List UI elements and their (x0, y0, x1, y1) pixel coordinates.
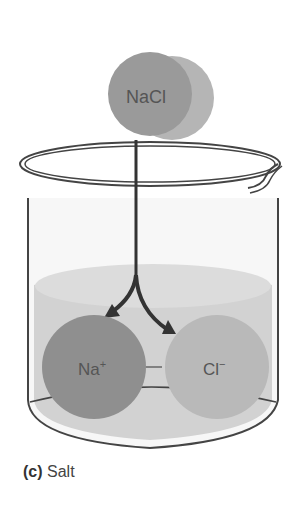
beaker-diagram (0, 0, 306, 509)
figure-caption: (c) Salt (23, 463, 75, 481)
caption-text: Salt (47, 463, 75, 480)
nacl-label: NaCl (126, 87, 166, 108)
chloride-ion-label: Cl− (203, 358, 226, 380)
sodium-ion-label: Na+ (78, 358, 106, 380)
caption-letter: (c) (23, 463, 43, 480)
